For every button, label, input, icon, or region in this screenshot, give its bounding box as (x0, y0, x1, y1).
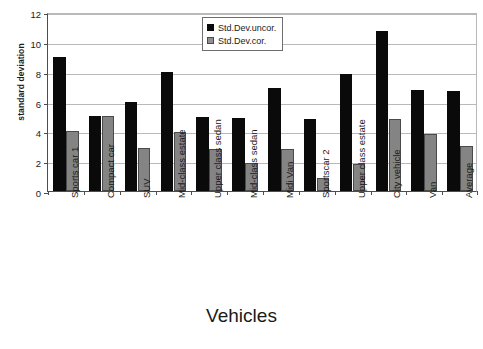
x-axis-tick (156, 191, 157, 195)
bar-uncor (161, 72, 174, 191)
x-axis-category-label: SUV (141, 178, 152, 198)
x-axis-category-label: Sportscar 2 (320, 149, 331, 198)
bar-group (406, 14, 442, 191)
x-axis-tick (227, 191, 228, 195)
bar-uncor (340, 74, 353, 191)
x-axis-tick (406, 191, 407, 195)
x-axis-category-label: Compact car (105, 144, 116, 198)
x-axis-category-label: Van (427, 182, 438, 198)
x-axis-tick (48, 191, 49, 195)
x-axis-category-label: City vehicle (391, 149, 402, 198)
bar-uncor (53, 57, 66, 191)
x-axis-category-label: Midi Van (284, 162, 295, 198)
x-axis-tick (299, 191, 300, 195)
bar-uncor (232, 118, 245, 191)
legend-label-cor: Std.Dev.cor. (218, 36, 266, 46)
legend-swatch-uncor-icon (207, 24, 214, 31)
x-axis-category-label: Upper class sedan (212, 119, 223, 198)
legend-swatch-cor-icon (207, 37, 214, 44)
x-axis-category-label: Upper class estate (356, 119, 367, 198)
x-axis-tick (371, 191, 372, 195)
x-axis-title: Vehicles (0, 305, 483, 327)
legend-item-cor: Std.Dev.cor. (207, 34, 276, 47)
bar-uncor (304, 119, 317, 191)
y-axis-tick-label: 12 (30, 9, 41, 20)
x-axis-category-label: Mid-class estate (176, 129, 187, 198)
chart-legend: Std.Dev.uncor. Std.Dev.cor. (202, 17, 283, 51)
bar-chart: standard deviation 024681012 Std.Dev.unc… (0, 0, 483, 349)
y-axis-tick-label: 4 (36, 128, 41, 139)
y-axis-tick-label: 8 (36, 68, 41, 79)
x-axis-category-label: Mid-class sedan (248, 129, 259, 198)
x-axis-tick (335, 191, 336, 195)
y-axis-tick-label: 0 (36, 188, 41, 199)
x-axis-tick (191, 191, 192, 195)
x-axis-tick (477, 191, 478, 195)
x-axis-category-label: Average (463, 163, 474, 198)
legend-label-uncor: Std.Dev.uncor. (218, 23, 276, 33)
y-axis-title: standard deviation (16, 22, 26, 142)
bar-uncor (411, 90, 424, 191)
x-axis-tick (84, 191, 85, 195)
bar-uncor (89, 116, 102, 191)
bar-uncor (376, 31, 389, 191)
y-axis-tick-label: 6 (36, 98, 41, 109)
bar-uncor (196, 117, 209, 191)
bar-uncor (447, 91, 460, 191)
x-axis-tick (263, 191, 264, 195)
bar-group (120, 14, 156, 191)
y-axis-tick-label: 2 (36, 158, 41, 169)
bar-uncor (125, 102, 138, 192)
y-axis-tick-label: 10 (30, 38, 41, 49)
x-axis-category-label: Sports car 1 (69, 147, 80, 198)
legend-item-uncor: Std.Dev.uncor. (207, 21, 276, 34)
x-axis-tick (442, 191, 443, 195)
x-axis-tick (120, 191, 121, 195)
bar-uncor (268, 88, 281, 191)
